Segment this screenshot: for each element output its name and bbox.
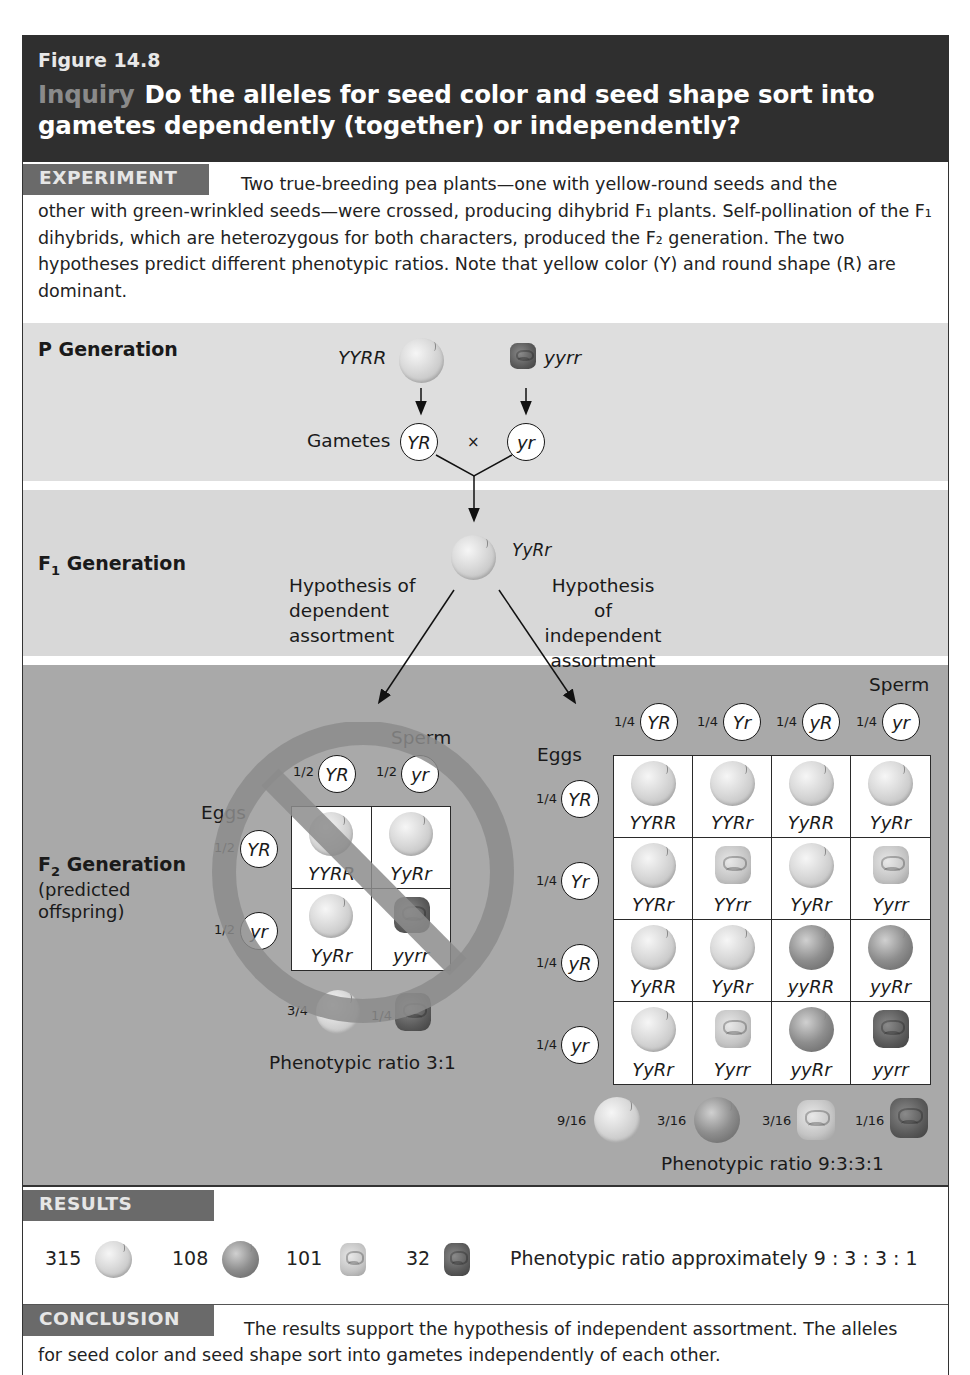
- independent-sperm-frac-4: 1/4: [856, 714, 877, 729]
- yellow-round-seed-icon: [710, 925, 755, 970]
- conclusion-text-line2: for seed color and seed shape sort into …: [38, 1342, 938, 1369]
- independent-pheno-frac-3: 3/16: [762, 1113, 791, 1128]
- independent-egg-frac-3: 1/4: [536, 955, 557, 970]
- yellow-round-seed-icon: [594, 1097, 640, 1143]
- punnett-cell: YyRR: [614, 920, 693, 1002]
- punnett-cell: YyRr: [693, 920, 772, 1002]
- result-count-yellow-round: 315: [45, 1247, 81, 1269]
- punnett-cell: Yyrr: [693, 1002, 772, 1085]
- yellow-round-seed-icon: [95, 1241, 132, 1278]
- independent-pheno-frac-1: 9/16: [557, 1113, 586, 1128]
- independent-egg-YR: YR: [561, 780, 599, 818]
- independent-sperm-yR: yR: [802, 703, 840, 741]
- parent2-genotype: yyrr: [544, 347, 581, 368]
- result-count-green-round: 108: [172, 1247, 208, 1269]
- independent-eggs-label: Eggs: [537, 744, 582, 765]
- f1-generation-label: F1 Generation: [38, 552, 186, 578]
- yellow-round-seed-icon: [868, 761, 913, 806]
- independent-sperm-label: Sperm: [869, 674, 929, 695]
- punnett-cell: yyRr: [772, 1002, 851, 1085]
- independent-egg-frac-4: 1/4: [536, 1037, 557, 1052]
- punnett-cell: YYRr: [693, 756, 772, 838]
- conclusion-tag: CONCLUSION: [23, 1305, 214, 1336]
- yellow-round-seed-icon: [789, 761, 834, 806]
- green-round-seed-icon: [222, 1241, 259, 1278]
- green-wrinkled-seed-icon: [444, 1243, 470, 1276]
- results-row: 315 108 101 32 Phenotypic ratio approxim…: [23, 1221, 948, 1309]
- green-wrinkled-seed-icon: [510, 343, 536, 369]
- independent-egg-frac-1: 1/4: [536, 791, 557, 806]
- results-tag: RESULTS: [23, 1190, 214, 1221]
- independent-sperm-frac-1: 1/4: [614, 714, 635, 729]
- yellow-round-seed-icon: [631, 843, 676, 888]
- hypothesis-independent: Hypothesis of independent assortment: [540, 573, 666, 673]
- yellow-wrinkled-seed-icon: [715, 1010, 751, 1048]
- f2-generation-label: F2 Generation: [38, 853, 186, 879]
- parent1-genotype: YYRR: [338, 347, 386, 368]
- green-round-seed-icon: [694, 1097, 740, 1143]
- dependent-ratio: Phenotypic ratio 3:1: [269, 1052, 456, 1073]
- punnett-cell: YyRr: [851, 756, 931, 838]
- hypothesis-dependent: Hypothesis of dependent assortment: [289, 573, 415, 648]
- punnett-cell: YYRr: [614, 838, 693, 920]
- punnett-cell: YyRR: [772, 756, 851, 838]
- yellow-round-seed-icon: [631, 1007, 676, 1052]
- independent-sperm-YR: YR: [640, 703, 678, 741]
- yellow-wrinkled-seed-icon: [715, 846, 751, 884]
- prohibited-symbol-icon: [208, 722, 518, 1032]
- cross-symbol: ×: [467, 433, 480, 451]
- results-ratio: Phenotypic ratio approximately 9 : 3 : 3…: [510, 1247, 918, 1269]
- gamete-YR: YR: [400, 423, 438, 461]
- punnett-cell: YYRR: [614, 756, 693, 838]
- green-round-seed-icon: [868, 925, 913, 970]
- punnett-cell: YYrr: [693, 838, 772, 920]
- independent-pheno-frac-2: 3/16: [657, 1113, 686, 1128]
- independent-egg-yr: yr: [561, 1026, 599, 1064]
- punnett-cell: Yyrr: [851, 838, 931, 920]
- f2-generation-sublabel: (predicted offspring): [38, 879, 130, 923]
- yellow-wrinkled-seed-icon: [797, 1100, 835, 1140]
- gametes-label: Gametes: [307, 430, 390, 451]
- conclusion-text-line1: The results support the hypothesis of in…: [244, 1316, 944, 1343]
- green-wrinkled-seed-icon: [873, 1010, 909, 1048]
- punnett-cell: yyRr: [851, 920, 931, 1002]
- punnett-cell: YyRr: [772, 838, 851, 920]
- independent-sperm-frac-3: 1/4: [776, 714, 797, 729]
- result-count-green-wrinkled: 32: [406, 1247, 430, 1269]
- yellow-round-seed-icon: [631, 925, 676, 970]
- independent-sperm-yr: yr: [882, 703, 920, 741]
- gamete-yr: yr: [507, 423, 545, 461]
- green-round-seed-icon: [789, 925, 834, 970]
- punnett-cell: YyRr: [614, 1002, 693, 1085]
- green-round-seed-icon: [789, 1007, 834, 1052]
- independent-sperm-frac-2: 1/4: [697, 714, 718, 729]
- yellow-wrinkled-seed-icon: [340, 1243, 366, 1276]
- yellow-round-seed-icon: [399, 338, 444, 383]
- yellow-wrinkled-seed-icon: [873, 846, 909, 884]
- independent-egg-frac-2: 1/4: [536, 873, 557, 888]
- f1-genotype: YyRr: [512, 540, 551, 560]
- yellow-round-seed-icon: [789, 843, 834, 888]
- yellow-round-seed-icon: [631, 761, 676, 806]
- punnett-cell: yyRR: [772, 920, 851, 1002]
- p-generation-label: P Generation: [38, 338, 178, 360]
- independent-punnett-square: YYRR YYRr YyRR YyRr YYRr YYrr YyRr Yyrr …: [613, 755, 931, 1085]
- independent-egg-yR: yR: [561, 944, 599, 982]
- independent-sperm-Yr: Yr: [723, 703, 761, 741]
- green-wrinkled-seed-icon: [890, 1098, 928, 1138]
- result-count-yellow-wrinkled: 101: [286, 1247, 322, 1269]
- independent-egg-Yr: Yr: [561, 862, 599, 900]
- independent-ratio: Phenotypic ratio 9:3:3:1: [661, 1153, 884, 1174]
- punnett-cell: yyrr: [851, 1002, 931, 1085]
- yellow-round-seed-icon: [710, 761, 755, 806]
- f1-yellow-round-seed-icon: [451, 535, 496, 580]
- independent-pheno-frac-4: 1/16: [855, 1113, 884, 1128]
